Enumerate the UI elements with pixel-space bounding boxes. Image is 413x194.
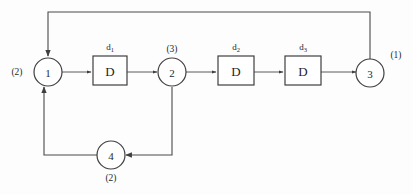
delay-1-label: D	[105, 64, 114, 79]
node-1-weight: (2)	[11, 67, 22, 78]
node-3-label: 3	[367, 68, 373, 80]
node-4[interactable]: 4 (2)	[97, 141, 125, 184]
node-2-label: 2	[169, 67, 175, 79]
node-4-weight: (2)	[105, 173, 116, 184]
node-2[interactable]: 2 (3)	[158, 44, 186, 86]
delay-2-label: D	[231, 64, 240, 79]
delay-3-name-sub: 3	[304, 46, 307, 53]
node-2-weight: (3)	[166, 44, 177, 55]
signal-flow-graph: D d1 D d2 D d3 1 (2) 2	[0, 0, 413, 194]
edge-node3-to-node1-feedback	[48, 12, 370, 60]
node-3[interactable]: 3 (1)	[356, 50, 402, 87]
delay-2-name: d2	[232, 42, 240, 53]
delay-2-name-sub: 2	[237, 46, 240, 53]
node-4-label: 4	[108, 150, 114, 162]
edge-node2-to-node4	[126, 87, 172, 155]
delay-block-2[interactable]: D d2	[218, 42, 254, 85]
delay-1-name-sub: 1	[111, 46, 114, 53]
node-3-weight: (1)	[390, 50, 401, 61]
diagram-canvas: D d1 D d2 D d3 1 (2) 2	[0, 0, 413, 194]
delay-block-3[interactable]: D d3	[285, 42, 321, 85]
delay-1-name: d1	[106, 42, 114, 53]
delay-3-name: d3	[299, 42, 307, 53]
delay-3-label: D	[298, 64, 307, 79]
edge-node4-to-node1	[44, 87, 97, 155]
node-1-label: 1	[45, 67, 51, 79]
delay-block-1[interactable]: D d1	[93, 42, 127, 85]
node-1[interactable]: 1 (2)	[11, 58, 62, 86]
